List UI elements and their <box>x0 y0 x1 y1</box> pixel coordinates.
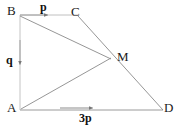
vertex-label-d: D <box>164 101 173 114</box>
vertex-label-b: B <box>7 4 16 17</box>
vector-label-3p: 3p <box>79 112 92 124</box>
vertex-label-m: M <box>117 50 129 63</box>
vector-label-q: q <box>6 54 13 66</box>
vertex-label-c: C <box>71 5 80 18</box>
segment-am <box>21 58 111 109</box>
vector-label-p: p <box>40 1 47 13</box>
geometry-canvas <box>0 0 184 128</box>
geometry-figure: B C M A D p q 3p <box>0 0 184 128</box>
vertex-label-a: A <box>7 101 16 114</box>
